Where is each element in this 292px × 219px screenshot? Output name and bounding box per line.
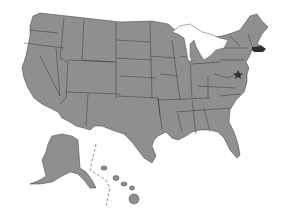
state-massachusetts [252, 46, 266, 52]
us-map [0, 0, 292, 219]
state-hawaii [101, 166, 139, 204]
state-alaska [30, 134, 96, 188]
inset-separator [90, 144, 110, 206]
